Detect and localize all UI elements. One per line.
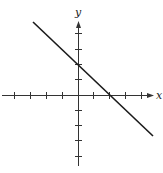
coordinate-plane: x y <box>0 0 163 173</box>
y-axis-arrow-icon <box>76 21 81 28</box>
y-axis <box>75 21 82 166</box>
x-axis-label: x <box>156 89 163 102</box>
function-line <box>33 22 153 136</box>
x-axis-arrow-icon <box>147 93 154 98</box>
y-axis-label: y <box>74 6 82 19</box>
